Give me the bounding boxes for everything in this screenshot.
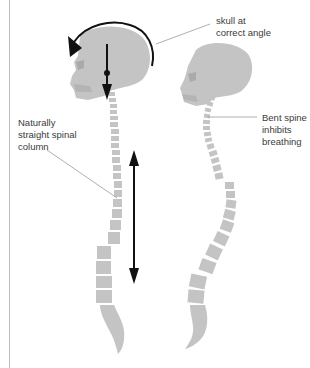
label-line: column (18, 141, 77, 153)
label-skull-at-correct-angle: skull at correct angle (216, 15, 271, 39)
posture-diagram (0, 0, 310, 368)
right-skull (180, 43, 252, 106)
label-line: breathing (262, 136, 307, 148)
right-spine (185, 95, 237, 349)
label-naturally-straight-spinal-column: Naturally straight spinal column (18, 117, 77, 153)
left-spine (96, 86, 124, 354)
leader-line-left-spine (47, 150, 117, 198)
label-line: skull at (216, 15, 271, 27)
label-bent-spine-inhibits-breathing: Bent spine inhibits breathing (262, 112, 307, 148)
label-line: inhibits (262, 124, 307, 136)
leader-line-skull (156, 24, 210, 44)
double-headed-arrow-icon (129, 150, 139, 284)
label-line: straight spinal (18, 129, 77, 141)
label-line: Naturally (18, 117, 77, 129)
label-line: correct angle (216, 27, 271, 39)
label-line: Bent spine (262, 112, 307, 124)
